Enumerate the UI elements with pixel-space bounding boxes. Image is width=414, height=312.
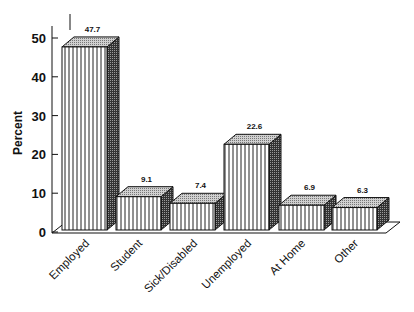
bar-other: 6.3 [332,186,389,230]
x-category-label: Employed [47,237,92,282]
x-category-label: Student [108,236,145,273]
x-category-label: Sick/Disabled [142,237,200,295]
y-tick-label: 40 [32,70,46,85]
bar-value-label: 9.1 [141,175,153,184]
bar-employed: 47.7 [62,25,119,230]
bar-value-label: 47.7 [85,25,101,34]
bar-student: 9.1 [116,175,173,230]
y-tick-label: 30 [32,109,46,124]
y-tick-label: 0 [39,225,46,240]
bar-value-label: 22.6 [247,122,263,131]
chart-canvas: 01020304050 47.79.17.422.66.96.3 Percent… [0,0,414,312]
bar-at-home: 6.9 [279,183,336,230]
x-category-label: Unemployed [199,237,253,291]
bar-chart: 01020304050 47.79.17.422.66.96.3 Percent… [0,0,414,312]
bar-value-label: 7.4 [195,181,207,190]
bar-value-label: 6.9 [304,183,316,192]
y-axis-title: Percent [11,111,25,155]
y-tick-label: 10 [32,186,46,201]
bar-sick-disabled: 7.4 [170,181,227,230]
y-tick-label: 50 [32,31,46,46]
y-axis: 01020304050 [32,26,58,240]
y-tick-label: 20 [32,147,46,162]
bars-group: 47.79.17.422.66.96.3 [62,25,389,230]
x-category-label: Other [332,237,361,266]
x-category-label: At Home [267,237,307,277]
bar-unemployed: 22.6 [224,122,281,230]
x-axis-labels: EmployedStudentSick/DisabledUnemployedAt… [47,236,361,294]
bar-value-label: 6.3 [357,186,369,195]
